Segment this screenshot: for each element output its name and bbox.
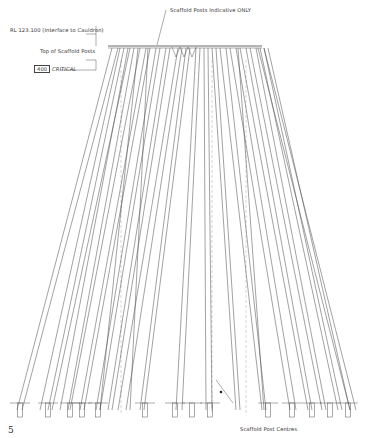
post-centres-label: Scaffold Post Centres	[240, 426, 297, 432]
dimension-note: 400 CRITICAL	[34, 66, 76, 72]
scaffold-posts-indicative-label: Scaffold Posts Indicative ONLY	[170, 7, 251, 13]
top-of-posts-label: Top of Scaffold Posts	[40, 48, 95, 54]
dimension-value: 400	[34, 65, 50, 73]
level-label: RL 123.100 (Interface to Cauldron)	[10, 27, 104, 33]
dimension-critical: CRITICAL	[52, 66, 76, 72]
page-number: 5	[8, 425, 14, 435]
